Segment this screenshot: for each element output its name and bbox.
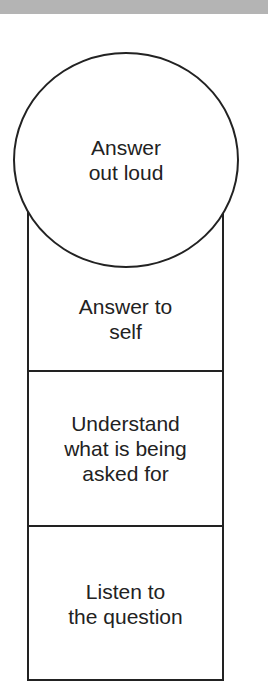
- level-listen: Listen to the question: [29, 527, 222, 681]
- level-answer-to-self: Answer to self: [29, 268, 222, 370]
- level-label: Understand what is being asked for: [64, 411, 187, 486]
- stack-box: Answer to self Understand what is being …: [27, 200, 224, 681]
- level-label: Answer to self: [79, 294, 172, 344]
- top-band: [0, 0, 268, 14]
- circle-label: Answer out loud: [89, 135, 164, 185]
- level-understand: Understand what is being asked for: [29, 372, 222, 525]
- level-label: Listen to the question: [68, 579, 182, 629]
- top-circle: Answer out loud: [13, 52, 239, 268]
